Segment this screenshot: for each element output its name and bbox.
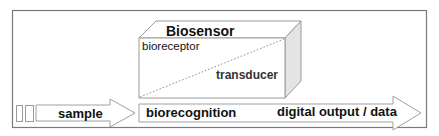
input-box-1 xyxy=(17,106,23,122)
sample-label: sample xyxy=(58,107,103,120)
biosensor-title: Biosensor xyxy=(166,24,234,38)
digital-output-label: digital output / data xyxy=(277,105,397,118)
transducer-label: transducer xyxy=(216,69,278,81)
bioreceptor-label: bioreceptor xyxy=(142,41,200,53)
input-box-2 xyxy=(26,106,34,122)
biorecognition-label: biorecognition xyxy=(146,106,236,119)
